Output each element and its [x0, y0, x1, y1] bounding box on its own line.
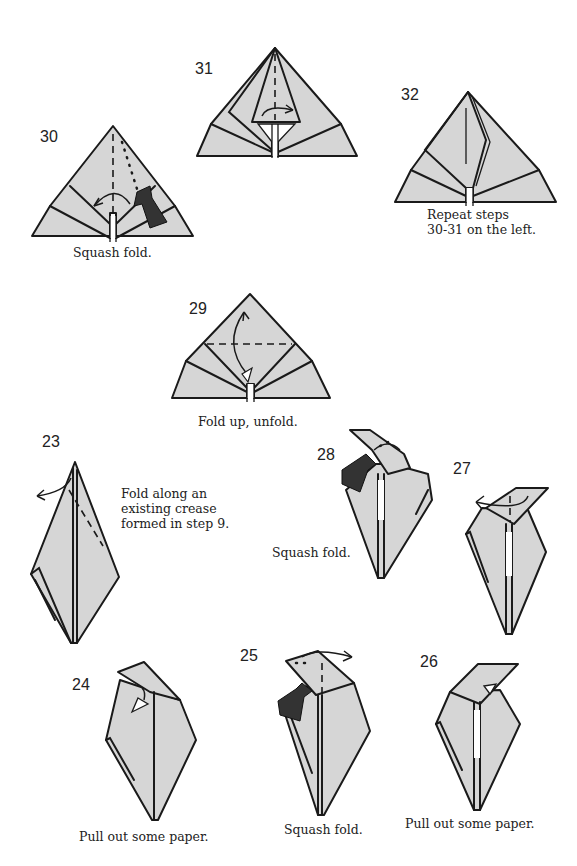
step-32-caption-line-1: Repeat steps — [427, 207, 509, 223]
step-23-caption-line-3: formed in step 9. — [121, 516, 229, 532]
step-25-diagram — [276, 651, 376, 817]
step-29-diagram — [170, 292, 340, 404]
step-28-caption: Squash fold. — [272, 545, 351, 561]
step-30-caption: Squash fold. — [73, 245, 152, 261]
step-23-caption-line-2: existing crease — [121, 501, 217, 517]
step-number-23: 23 — [42, 433, 60, 451]
step-23-caption-line-1: Fold along an — [121, 486, 207, 502]
step-26-diagram — [434, 662, 534, 812]
step-24-diagram — [104, 662, 199, 822]
step-31-diagram — [195, 46, 365, 161]
step-24-caption: Pull out some paper. — [79, 829, 209, 845]
step-number-25: 25 — [240, 647, 258, 665]
step-27-diagram — [462, 486, 557, 636]
step-23-diagram — [25, 460, 115, 645]
step-number-27: 27 — [453, 460, 471, 478]
step-25-caption: Squash fold. — [284, 822, 363, 838]
step-28-diagram — [340, 428, 440, 583]
step-32-caption-line-2: 30-31 on the left. — [427, 222, 536, 238]
step-26-caption: Pull out some paper. — [405, 816, 535, 832]
step-32-diagram — [393, 90, 563, 210]
step-29-caption: Fold up, unfold. — [198, 414, 298, 430]
step-30-diagram — [30, 120, 200, 245]
step-number-28: 28 — [317, 446, 335, 464]
step-number-24: 24 — [72, 676, 90, 694]
